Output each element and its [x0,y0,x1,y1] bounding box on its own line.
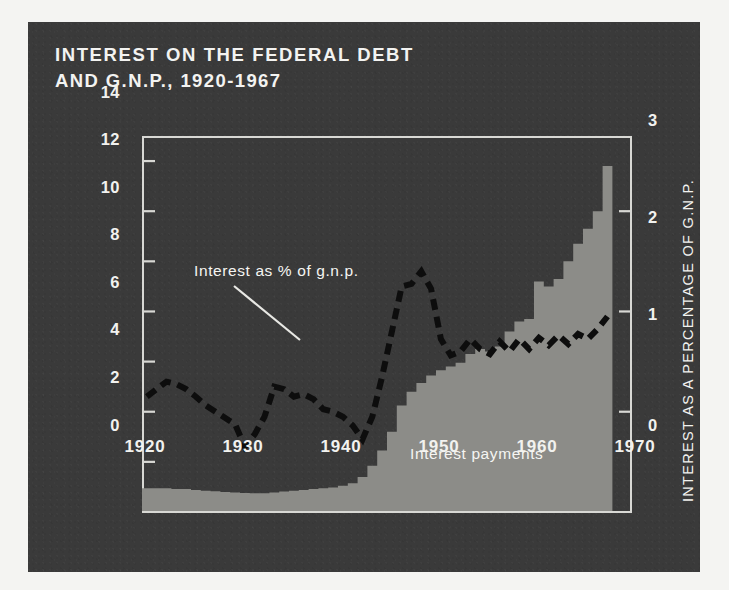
left-tick-0: 0 [80,416,120,435]
page-title: INTEREST ON THE FEDERAL DEBT AND G.N.P.,… [55,42,495,94]
x-tick-1970: 1970 [600,437,670,457]
right-tick-3: 3 [648,111,688,130]
chart-canvas [28,22,700,572]
x-tick-1920: 1920 [110,437,180,457]
annotation-leader-line [234,286,300,340]
left-tick-4: 4 [80,320,120,339]
left-tick-14: 14 [80,83,120,102]
annotation-interest-payments: Interest payments [410,445,543,463]
left-tick-12: 12 [80,130,120,149]
x-tick-1940: 1940 [306,437,376,457]
title-line-2: AND G.N.P., 1920-1967 [55,68,495,94]
right-axis-title: INTEREST AS A PERCENTAGE OF G.N.P. [680,179,696,502]
x-tick-1930: 1930 [208,437,278,457]
left-tick-10: 10 [80,178,120,197]
left-tick-8: 8 [80,225,120,244]
left-tick-2: 2 [80,368,120,387]
title-line-1: INTEREST ON THE FEDERAL DEBT [55,42,495,68]
left-tick-6: 6 [80,273,120,292]
chart-page: INTEREST ON THE FEDERAL DEBT AND G.N.P.,… [0,0,729,590]
plot-baseline [142,511,632,513]
annotation-gnp-line: Interest as % of g.n.p. [194,262,359,280]
chart-panel: INTEREST ON THE FEDERAL DEBT AND G.N.P.,… [28,22,700,572]
